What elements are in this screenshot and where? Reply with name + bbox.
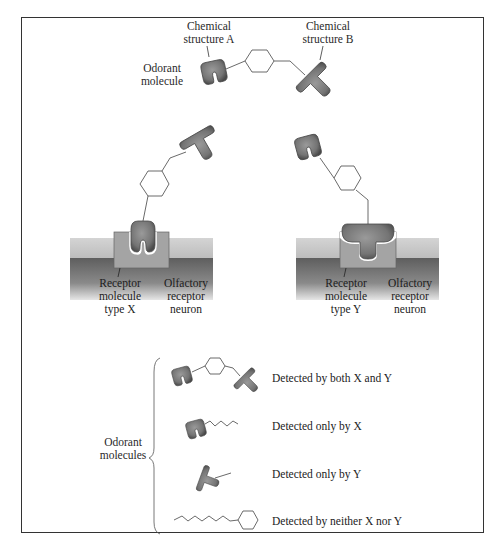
legend-item-neither: Detected by neither X nor Y [272, 515, 402, 528]
label-line: neuron [158, 303, 214, 316]
label-line: structure B [297, 33, 359, 46]
label-line: Chemical [180, 20, 238, 33]
label-line: Odorant [94, 436, 152, 449]
label-odorant-molecule: Odorant molecule [134, 62, 190, 88]
label-odorant-molecules: Odorant molecules [94, 436, 152, 462]
label-line: Receptor [318, 277, 374, 290]
receptor-y-panel [294, 133, 439, 300]
label-neuron-x: Olfactory receptor neuron [158, 277, 214, 316]
label-line: type Y [318, 303, 374, 316]
label-line: molecule [134, 75, 190, 88]
legend-artwork [149, 358, 266, 534]
legend-item-both: Detected by both X and Y [272, 372, 392, 385]
label-line: neuron [382, 303, 438, 316]
label-chemical-structure-a: Chemical structure A [180, 20, 238, 46]
label-line: molecule [92, 290, 148, 303]
label-line: receptor [382, 290, 438, 303]
top-odorant-molecule [200, 46, 342, 108]
label-line: Receptor [92, 277, 148, 290]
structure-a-shape [200, 59, 228, 86]
label-line: receptor [158, 290, 214, 303]
legend-item-only-x: Detected only by X [272, 420, 362, 433]
legend-item-only-y: Detected only by Y [272, 468, 361, 481]
label-neuron-y: Olfactory receptor neuron [382, 277, 438, 316]
label-line: Olfactory [158, 277, 214, 290]
label-line: molecule [318, 290, 374, 303]
label-line: type X [92, 303, 148, 316]
label-line: Odorant [134, 62, 190, 75]
hexagon-ring [245, 50, 274, 72]
label-line: molecules [94, 449, 152, 462]
label-line: structure A [180, 33, 238, 46]
label-receptor-y: Receptor molecule type Y [318, 277, 374, 316]
label-receptor-x: Receptor molecule type X [92, 277, 148, 316]
label-line: Olfactory [382, 277, 438, 290]
label-line: Chemical [297, 20, 359, 33]
label-chemical-structure-b: Chemical structure B [297, 20, 359, 46]
receptor-x-panel [70, 125, 225, 300]
